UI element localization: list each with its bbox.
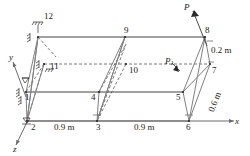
node-label-3: 3 xyxy=(96,123,101,132)
dot-node-4 xyxy=(98,91,100,93)
frame-diagram-svg xyxy=(0,0,250,156)
member-8-6 xyxy=(189,37,205,121)
member-5-6 xyxy=(183,92,189,121)
node-label-5: 5 xyxy=(176,93,181,102)
dim-label-span-2: 0.9 m xyxy=(134,123,155,132)
dot-node-11 xyxy=(43,63,45,65)
figure-canvas: 12 11 9 10 8 7 1 4 5 2 3 6 x y z P P1 0.… xyxy=(0,0,250,156)
node-label-12: 12 xyxy=(44,12,53,21)
dot-node-8 xyxy=(204,36,206,38)
dot-node-7 xyxy=(209,63,211,65)
dim-label-span-1: 0.9 m xyxy=(54,123,75,132)
solid-members xyxy=(26,37,205,121)
member-6-7 xyxy=(189,64,210,121)
node-label-1: 1 xyxy=(25,93,30,102)
member-8-5 xyxy=(183,37,205,92)
left-bent xyxy=(26,37,44,121)
dim-label-height-top: 0.2 m xyxy=(211,46,232,55)
middle-bent xyxy=(97,37,125,121)
node-label-8: 8 xyxy=(205,26,210,35)
member-3-9b xyxy=(97,37,125,121)
support-node-1 xyxy=(16,88,21,105)
axis-group xyxy=(13,62,234,145)
node-label-11: 11 xyxy=(50,62,59,71)
load-P1-subscript: 1 xyxy=(171,59,174,66)
node-label-7: 7 xyxy=(212,66,217,75)
load-P-arrowhead xyxy=(191,10,199,17)
member-12-11-diag xyxy=(38,37,56,57)
node-label-10: 10 xyxy=(129,66,138,75)
dashed-members xyxy=(26,37,210,121)
dot-node-2 xyxy=(26,120,28,122)
dot-node-12 xyxy=(37,36,39,38)
support-node-12 xyxy=(32,22,43,33)
dot-node-5 xyxy=(182,91,184,93)
load-label-P1: P1 xyxy=(165,57,174,67)
member-5-7 xyxy=(183,64,210,92)
node-label-6: 6 xyxy=(186,123,191,132)
node-label-4: 4 xyxy=(91,93,96,102)
axis-label-z: z xyxy=(13,145,17,154)
dot-node-10 xyxy=(125,63,127,65)
dot-node-9 xyxy=(124,36,126,38)
member-4-10-back xyxy=(99,44,126,92)
node-label-9: 9 xyxy=(124,26,129,35)
load-arrows xyxy=(172,10,207,72)
load-label-P: P xyxy=(184,3,190,12)
z-axis-line xyxy=(16,122,27,145)
axis-label-y: y xyxy=(9,53,13,62)
node-label-2: 2 xyxy=(31,123,36,132)
axis-label-x: x xyxy=(235,117,239,126)
support-node-12-left xyxy=(27,33,30,42)
member-9-4 xyxy=(99,37,125,92)
